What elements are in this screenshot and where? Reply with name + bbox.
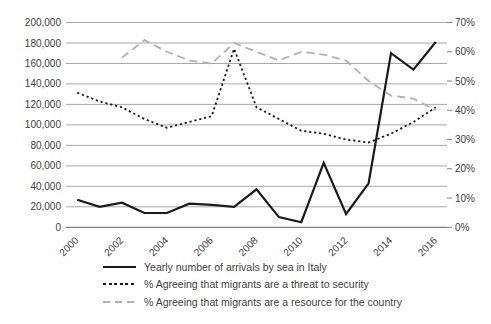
x-axis-tick-label: 2012 — [326, 234, 350, 258]
left-axis-tick-label: 0 — [55, 222, 61, 233]
x-axis-tick-label: 2000 — [57, 234, 81, 258]
legend-label-resource: % Agreeing that migrants are a resource … — [144, 296, 402, 308]
left-axis-tick-label: 60,000 — [30, 160, 61, 171]
x-axis-tick-label: 2016 — [416, 234, 440, 258]
left-axis-tick-label: 140,000 — [25, 78, 62, 89]
left-axis-tick-label: 20,000 — [30, 201, 61, 212]
legend-label-arrivals: Yearly number of arrivals by sea in Ital… — [144, 261, 327, 273]
right-axis-tick-label: 70% — [455, 17, 475, 28]
left-axis-tick-label: 160,000 — [25, 58, 62, 69]
left-axis-tick-label: 200,000 — [25, 17, 62, 28]
x-axis-tick-label: 2002 — [102, 234, 126, 258]
left-axis-tick-label: 100,000 — [25, 119, 62, 130]
legend-swatch-dotted-line — [103, 283, 136, 285]
right-axis-tick-label: 10% — [455, 193, 475, 204]
series-line-1 — [77, 49, 436, 143]
right-axis-tick-label: 60% — [455, 46, 475, 57]
x-axis-tick-label: 2008 — [236, 234, 260, 258]
left-axis-tick-label: 120,000 — [25, 99, 62, 110]
left-axis-tick-label: 180,000 — [25, 38, 62, 49]
x-axis-tick-label: 2014 — [371, 234, 395, 258]
right-axis-tick-label: 20% — [455, 163, 475, 174]
right-axis-tick-label: 40% — [455, 105, 475, 116]
series-line-2 — [122, 40, 436, 110]
left-axis-tick-label: 80,000 — [30, 140, 61, 151]
legend-item-arrivals: Yearly number of arrivals by sea in Ital… — [103, 260, 402, 273]
legend-swatch-dashed-line — [103, 301, 136, 303]
series-line-0 — [77, 42, 436, 222]
right-axis-tick-label: 30% — [455, 134, 475, 145]
chart-container: 020,00040,00060,00080,000100,000120,0001… — [0, 0, 491, 324]
legend-swatch-solid-line — [103, 266, 136, 268]
legend-label-threat: % Agreeing that migrants are a threat to… — [144, 278, 369, 290]
left-axis-tick-label: 40,000 — [30, 181, 61, 192]
right-axis-tick-label: 50% — [455, 76, 475, 87]
x-axis-tick-label: 2006 — [192, 234, 216, 258]
legend: Yearly number of arrivals by sea in Ital… — [103, 260, 402, 308]
x-axis-tick-label: 2004 — [147, 234, 171, 258]
legend-item-resource: % Agreeing that migrants are a resource … — [103, 295, 402, 308]
right-axis-tick-label: 0% — [455, 222, 470, 233]
x-axis-tick-label: 2010 — [281, 234, 305, 258]
legend-item-threat: % Agreeing that migrants are a threat to… — [103, 278, 402, 291]
